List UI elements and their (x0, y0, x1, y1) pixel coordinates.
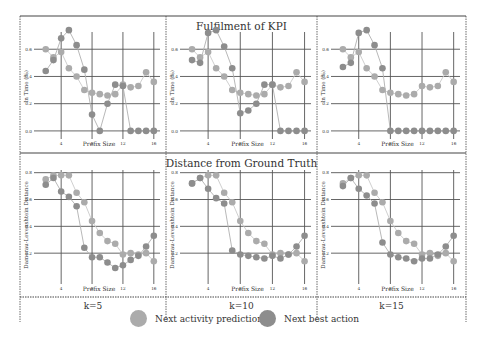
data-point (435, 128, 442, 135)
data-point (435, 251, 442, 258)
data-point (387, 218, 394, 225)
data-point (237, 89, 244, 96)
data-point (221, 73, 228, 80)
panel-bottom-middle: Distance from Ground Truth0.20.40.60.848… (166, 157, 318, 292)
data-point (340, 64, 347, 71)
data-point (379, 199, 386, 206)
data-point (403, 238, 410, 245)
data-point (205, 185, 212, 192)
data-point (221, 190, 228, 197)
xtick-label: 4 (207, 286, 210, 291)
data-point (213, 27, 220, 34)
data-point (253, 238, 260, 245)
xtick-label: 16 (451, 286, 457, 291)
xtick-label: 12 (120, 286, 126, 291)
data-point (58, 172, 65, 179)
data-point (387, 128, 394, 135)
data-point (143, 69, 150, 76)
data-point (81, 245, 88, 252)
y-axis-label: In Time (%) (23, 70, 29, 103)
data-point (403, 255, 410, 262)
data-point (189, 180, 196, 187)
data-point (96, 91, 103, 98)
data-point (301, 258, 308, 265)
y-axis-label: Damerau-Levenshtein Distance (320, 181, 326, 269)
xtick-label: 12 (120, 141, 126, 146)
data-point (104, 259, 111, 266)
series-line (46, 30, 154, 131)
data-point (395, 254, 402, 261)
data-point (66, 194, 73, 201)
data-point (450, 128, 457, 135)
xtick-label: 16 (302, 141, 308, 146)
data-point (120, 251, 127, 258)
data-point (363, 65, 370, 72)
figure: k=5k=10k=150.00.20.40.6481216Prefix Size… (0, 0, 487, 349)
data-point (143, 250, 150, 257)
data-point (50, 175, 57, 182)
data-point (387, 89, 394, 96)
data-point (340, 183, 347, 190)
data-point (411, 128, 418, 135)
panel-bottom-right: 0.20.40.60.8481216Prefix SizeDamerau-Lev… (320, 170, 460, 292)
data-point (450, 79, 457, 86)
xtick-label: 16 (302, 286, 308, 291)
xtick-label: 4 (357, 141, 360, 146)
data-point (189, 46, 196, 53)
data-point (442, 250, 449, 257)
data-point (50, 57, 57, 64)
legend-marker-icon (259, 310, 276, 327)
data-point (285, 83, 292, 90)
data-point (213, 65, 220, 72)
data-point (112, 265, 119, 272)
data-point (387, 251, 394, 258)
data-point (427, 128, 434, 135)
legend-marker-icon (130, 310, 147, 327)
ytick-label: 0.0 (25, 129, 32, 134)
xtick-label: 4 (60, 286, 63, 291)
xtick-label: 4 (357, 286, 360, 291)
data-point (395, 128, 402, 135)
xtick-label: 12 (270, 286, 276, 291)
data-point (411, 91, 418, 98)
data-point (285, 251, 292, 258)
xtick-label: 4 (207, 141, 210, 146)
data-point (293, 243, 300, 250)
data-point (112, 81, 119, 88)
data-point (395, 91, 402, 98)
series-line (46, 175, 154, 261)
data-point (89, 254, 96, 261)
data-point (58, 188, 65, 195)
data-point (419, 83, 426, 90)
data-point (66, 65, 73, 72)
data-point (355, 172, 362, 179)
data-point (229, 199, 236, 206)
data-point (221, 200, 228, 207)
data-point (379, 239, 386, 246)
data-point (151, 258, 158, 265)
data-point (127, 128, 134, 135)
xtick-label: 16 (451, 141, 457, 146)
legend-item-next-activity-prediction: Next activity prediction (130, 310, 263, 327)
data-point (261, 91, 268, 98)
xtick-label: 4 (60, 141, 63, 146)
data-point (112, 91, 119, 98)
data-point (371, 190, 378, 197)
data-point (135, 128, 142, 135)
data-point (442, 69, 449, 76)
data-point (120, 83, 127, 90)
data-point (73, 73, 80, 80)
x-axis-label: Prefix Size (231, 140, 264, 147)
data-point (89, 218, 96, 225)
data-point (96, 230, 103, 237)
xtick-label: 16 (151, 141, 157, 146)
data-point (442, 243, 449, 250)
data-point (395, 230, 402, 237)
data-point (371, 73, 378, 80)
data-point (419, 255, 426, 262)
data-point (189, 57, 196, 64)
data-point (261, 240, 268, 247)
data-point (127, 257, 134, 264)
data-point (213, 172, 220, 179)
data-point (104, 238, 111, 245)
